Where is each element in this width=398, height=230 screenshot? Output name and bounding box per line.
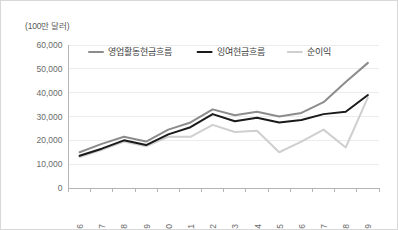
x-axis-tick-label: 2011 — [186, 224, 196, 230]
x-axis-tick-label: 2019 — [363, 224, 373, 230]
series-line-2 — [80, 95, 368, 156]
x-axis: 2006200720082009201020112012201320142015… — [69, 188, 380, 230]
x-axis-tick-label: 2018 — [341, 224, 351, 230]
x-axis-tick-label: 2015 — [275, 224, 285, 230]
data-series — [80, 63, 368, 157]
x-axis-tick-label: 2012 — [208, 224, 218, 230]
y-axis-tick-label: 10,000 — [37, 159, 63, 169]
x-axis-tick-label: 2017 — [319, 224, 329, 230]
legend-label-2: 잉여현금흐름 — [217, 46, 265, 57]
y-axis-tick-label: 40,000 — [37, 88, 63, 98]
y-axis-tick-label: 0 — [58, 183, 63, 193]
chart-plot-area: 60,00050,00040,00030,00020,00010,0000 20… — [1, 1, 398, 230]
y-axis-tick-label: 60,000 — [37, 40, 63, 50]
y-axis: 60,00050,00040,00030,00020,00010,0000 — [37, 40, 69, 193]
x-axis-tick-label: 2013 — [230, 224, 240, 230]
gridlines — [69, 45, 380, 164]
chart-legend: 영업활동현금흐름잉여현금흐름순이익 — [89, 46, 331, 57]
y-axis-tick-label: 50,000 — [37, 64, 63, 74]
y-axis-tick-label: 30,000 — [37, 112, 63, 122]
line-chart-card: (100만 달러) 60,00050,00040,00030,00020,000… — [0, 0, 398, 230]
series-line-3 — [80, 97, 368, 157]
x-axis-tick-label: 2009 — [142, 224, 152, 230]
x-axis-tick-label: 2016 — [297, 224, 307, 230]
legend-label-1: 영업활동현금흐름 — [108, 46, 172, 57]
x-axis-tick-label: 2010 — [164, 224, 174, 230]
x-axis-tick-label: 2006 — [75, 224, 85, 230]
x-axis-tick-label: 2014 — [253, 224, 263, 230]
legend-label-3: 순이익 — [307, 46, 331, 57]
x-axis-tick-label: 2008 — [119, 224, 129, 230]
x-axis-tick-label: 2007 — [97, 224, 107, 230]
series-line-1 — [80, 63, 368, 152]
y-axis-tick-label: 20,000 — [37, 135, 63, 145]
